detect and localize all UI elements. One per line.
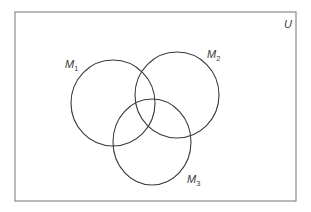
set-m1-label-subscript: 1 bbox=[74, 64, 78, 73]
universe-box bbox=[15, 12, 296, 201]
universe-label: U bbox=[284, 18, 292, 30]
set-m2-label-subscript: 2 bbox=[216, 54, 220, 63]
venn-diagram: U M1 M2 M3 bbox=[0, 0, 311, 212]
set-m3-label-subscript: 3 bbox=[196, 179, 200, 188]
